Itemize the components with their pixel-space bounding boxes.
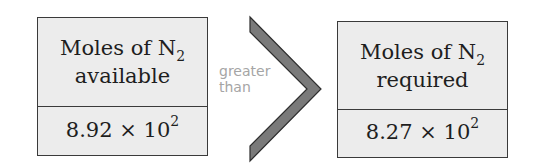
moles-required-box: Moles of N2 required 8.27 × 102 <box>337 21 508 158</box>
moles-required-label: Moles of N2 required <box>338 22 507 110</box>
subscript: 2 <box>476 52 485 68</box>
moles-required-value: 8.27 × 102 <box>338 107 507 157</box>
label-line2: required <box>376 67 468 93</box>
value-exponent: 2 <box>470 115 479 131</box>
value-mantissa: 8.27 × 10 <box>366 120 470 144</box>
label-text: Moles of N <box>360 40 476 64</box>
